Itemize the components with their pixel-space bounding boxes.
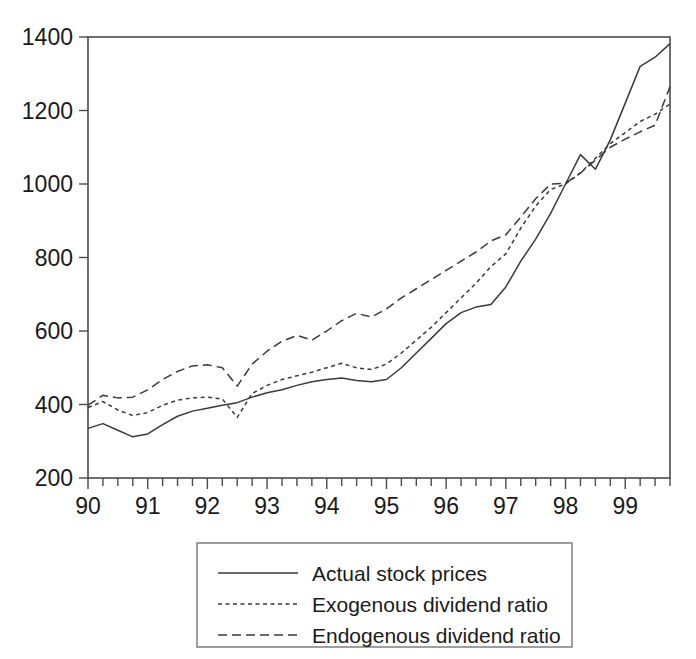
y-axis-tick-labels: 200400600800100012001400 [22, 24, 73, 491]
x-tick-label: 93 [254, 493, 280, 519]
x-tick-label: 90 [75, 493, 101, 519]
x-tick-label: 94 [314, 493, 340, 519]
x-tick-label: 92 [195, 493, 221, 519]
y-tick-label: 1000 [22, 171, 73, 197]
legend-label-1: Exogenous dividend ratio [312, 593, 548, 616]
y-tick-label: 200 [35, 465, 73, 491]
series-line-2 [88, 87, 670, 406]
x-axis-ticks [88, 478, 670, 489]
x-tick-label: 91 [135, 493, 161, 519]
chart-page: 200400600800100012001400 909192939495969… [0, 0, 696, 659]
x-tick-label: 99 [612, 493, 638, 519]
series-line-1 [88, 104, 670, 417]
y-tick-label: 400 [35, 392, 73, 418]
x-axis-tick-labels: 90919293949596979899 [75, 493, 638, 519]
x-tick-label: 95 [374, 493, 400, 519]
x-tick-label: 96 [433, 493, 459, 519]
data-series-group [88, 44, 670, 437]
chart-legend: Actual stock pricesExogenous dividend ra… [197, 543, 572, 647]
x-tick-label: 97 [493, 493, 519, 519]
legend-label-0: Actual stock prices [312, 562, 487, 585]
x-tick-label: 98 [553, 493, 579, 519]
legend-label-2: Endogenous dividend ratio [312, 624, 561, 647]
y-tick-label: 1200 [22, 98, 73, 124]
plot-frame [88, 37, 670, 478]
plot-area-border [88, 37, 670, 478]
y-tick-label: 1400 [22, 24, 73, 50]
line-chart: 200400600800100012001400 909192939495969… [0, 0, 696, 659]
y-tick-label: 800 [35, 245, 73, 271]
y-tick-label: 600 [35, 318, 73, 344]
series-line-0 [88, 44, 670, 437]
y-axis-ticks [79, 37, 88, 478]
